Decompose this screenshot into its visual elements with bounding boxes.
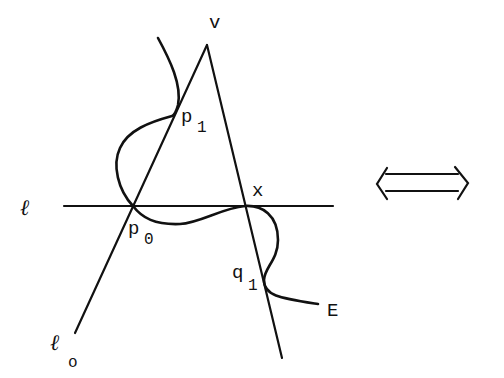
- label-E: E: [327, 300, 338, 322]
- label-v: v: [209, 12, 220, 34]
- label-p1-subscript: 1: [197, 119, 207, 137]
- label-q1: q: [232, 262, 243, 284]
- diagram-svg: v p 1 p 0 x q 1 E ℓ ℓ o: [0, 0, 504, 378]
- label-p0: p: [128, 218, 139, 240]
- line-vx: [207, 45, 282, 358]
- label-l0-subscript: o: [68, 354, 78, 372]
- label-p0-subscript: 0: [144, 231, 154, 249]
- label-l: ℓ: [20, 195, 30, 220]
- iff-arrow-icon: [377, 167, 468, 199]
- label-x: x: [252, 180, 263, 202]
- line-l0: [75, 45, 207, 333]
- label-q1-subscript: 1: [248, 277, 258, 295]
- curve-E: [116, 38, 318, 304]
- label-l0: ℓ: [50, 330, 60, 355]
- diagram-canvas: v p 1 p 0 x q 1 E ℓ ℓ o: [0, 0, 504, 378]
- label-p1: p: [181, 106, 192, 128]
